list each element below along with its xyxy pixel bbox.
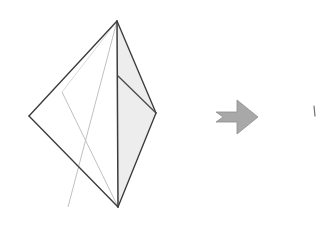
geometry-figure-canvas bbox=[0, 0, 321, 229]
edge-apex-bottom bbox=[117, 21, 118, 207]
figure-stage bbox=[0, 0, 321, 229]
